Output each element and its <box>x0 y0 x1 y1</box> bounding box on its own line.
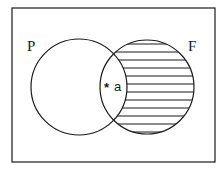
label-f: F <box>188 38 196 54</box>
label-p: P <box>27 38 35 54</box>
asterisk-marker: * <box>104 80 110 95</box>
venn-diagram: P F * a <box>0 0 224 171</box>
circle-p <box>31 39 127 135</box>
element-a-label: a <box>114 79 122 94</box>
